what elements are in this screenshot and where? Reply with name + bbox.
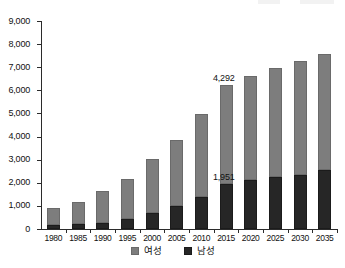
bar-segment-female[interactable] (146, 159, 159, 213)
bar-segment-female[interactable] (96, 191, 109, 222)
bar-2020[interactable] (244, 76, 257, 229)
x-axis-tick (140, 229, 141, 233)
bar-segment-male[interactable] (72, 224, 85, 229)
x-axis-tick (214, 229, 215, 233)
x-axis-tick-label: 2035 (311, 234, 339, 243)
bar-2005[interactable] (170, 140, 183, 229)
bar-2030[interactable] (294, 61, 307, 229)
y-axis-tick (37, 44, 41, 45)
y-axis-tick-label: 0 (0, 225, 30, 234)
bar-2010[interactable] (195, 114, 208, 229)
bar-1980[interactable] (47, 208, 60, 229)
bar-1990[interactable] (96, 191, 109, 229)
y-axis-tick (37, 229, 41, 230)
bar-segment-male[interactable] (269, 177, 282, 229)
y-axis-tick-label: 4,000 (0, 132, 30, 141)
bar-segment-female[interactable] (47, 208, 60, 225)
bar-segment-female[interactable] (195, 114, 208, 197)
y-axis-tick-label: 1,000 (0, 201, 30, 210)
bar-segment-female[interactable] (72, 202, 85, 224)
bar-segment-male[interactable] (96, 223, 109, 229)
legend-label-female: 여성 (144, 246, 162, 256)
y-axis-tick-label: 5,000 (0, 109, 30, 118)
bar-segment-male[interactable] (170, 206, 183, 229)
bar-segment-female[interactable] (244, 76, 257, 180)
y-axis-line (41, 21, 42, 229)
x-axis-tick (189, 229, 190, 233)
bar-segment-male[interactable] (318, 170, 331, 229)
x-axis-tick (238, 229, 239, 233)
bar-1995[interactable] (121, 179, 134, 229)
y-axis-tick (37, 113, 41, 114)
y-axis-tick-label: 2,000 (0, 178, 30, 187)
bar-segment-male[interactable] (121, 219, 134, 229)
bar-segment-male[interactable] (294, 175, 307, 229)
bar-segment-female[interactable] (294, 61, 307, 174)
bar-2035[interactable] (318, 54, 331, 229)
x-axis-tick (164, 229, 165, 233)
y-axis-tick-label: 9,000 (0, 17, 30, 26)
legend-item-male[interactable]: 남성 (184, 246, 215, 256)
bar-1985[interactable] (72, 202, 85, 229)
bar-segment-male[interactable] (146, 213, 159, 229)
x-axis-tick (312, 229, 313, 233)
x-axis-tick (337, 229, 338, 233)
chart-legend: 여성 남성 (0, 246, 345, 256)
bar-segment-female[interactable] (318, 54, 331, 170)
y-axis-tick (37, 67, 41, 68)
x-axis-tick (115, 229, 116, 233)
x-axis-tick (66, 229, 67, 233)
legend-label-male: 남성 (197, 246, 215, 256)
bar-segment-male[interactable] (244, 180, 257, 229)
y-axis-tick (37, 206, 41, 207)
y-axis-tick (37, 160, 41, 161)
bar-segment-male[interactable] (220, 184, 233, 229)
x-axis-tick (90, 229, 91, 233)
value-label-남성-2015: 1,951 (213, 173, 235, 182)
plot-area: 01,0002,0003,0004,0005,0006,0007,0008,00… (41, 18, 337, 229)
bar-segment-female[interactable] (220, 85, 233, 184)
y-axis-tick (37, 137, 41, 138)
legend-item-female[interactable]: 여성 (131, 246, 162, 256)
bar-segment-male[interactable] (195, 197, 208, 229)
bar-segment-female[interactable] (121, 179, 134, 219)
y-axis-tick-label: 6,000 (0, 86, 30, 95)
x-axis-tick (288, 229, 289, 233)
bar-2025[interactable] (269, 68, 282, 229)
y-axis-tick-label: 8,000 (0, 40, 30, 49)
female-swatch-icon (131, 247, 139, 255)
scan-artifact (300, 0, 334, 4)
bar-2000[interactable] (146, 159, 159, 229)
bar-segment-female[interactable] (170, 140, 183, 205)
male-swatch-icon (184, 247, 192, 255)
bar-segment-female[interactable] (269, 68, 282, 177)
stacked-bar-chart: 01,0002,0003,0004,0005,0006,0007,0008,00… (0, 0, 345, 268)
scan-artifact (258, 0, 280, 4)
y-axis-tick (37, 21, 41, 22)
bar-2015[interactable] (220, 85, 233, 229)
bar-segment-male[interactable] (47, 225, 60, 229)
y-axis-tick (37, 90, 41, 91)
y-axis-tick-label: 7,000 (0, 63, 30, 72)
value-label-여성-2015: 4,292 (213, 74, 235, 83)
y-axis-tick-label: 3,000 (0, 155, 30, 164)
x-axis-tick (263, 229, 264, 233)
y-axis-tick (37, 183, 41, 184)
